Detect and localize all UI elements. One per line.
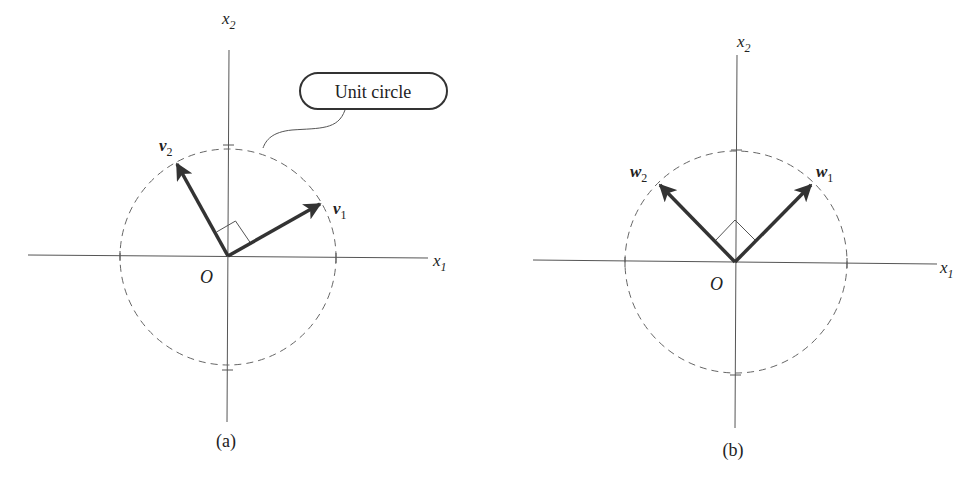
x1-axis-label: x1 [939,258,954,281]
figure-canvas: x2 x1 O v1 v2 Unit circle (a) x2 x1 O w1… [0,0,975,484]
vector-w2-arrow [660,185,735,262]
x2-axis-label: x2 [221,9,236,32]
vector-v2-label: v2 [159,136,173,159]
x1-axis-label: x1 [432,251,447,274]
right-angle-marker [217,221,251,243]
x2-axis [227,50,229,422]
vector-w1-arrow [735,185,811,262]
vector-v1-label: v1 [333,199,347,222]
vector-w2-label: w2 [630,162,647,185]
panel-b: x2 x1 O w1 w2 (b) [533,32,954,461]
origin-label: O [200,267,213,287]
right-angle-marker [716,220,755,240]
vector-v2-arrow [177,164,228,256]
unit-circle-callout-label: Unit circle [335,82,411,102]
x2-axis-label: x2 [736,32,751,55]
panel-a: x2 x1 O v1 v2 Unit circle (a) [28,9,447,452]
x2-axis [735,55,737,428]
vector-w1-label: w1 [816,162,833,185]
panel-b-caption: (b) [723,440,744,461]
callout-leader-line [263,110,345,148]
panel-a-caption: (a) [216,431,236,452]
origin-label: O [710,274,723,294]
